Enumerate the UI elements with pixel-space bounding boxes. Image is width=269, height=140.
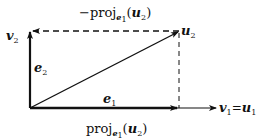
e1-label: e1 xyxy=(103,91,116,108)
v2-label: v2 xyxy=(6,28,19,45)
proj-label: proje1(u2) xyxy=(86,121,147,140)
e2-label: e2 xyxy=(34,60,47,77)
neg-proj-label: −proje1(u2) xyxy=(79,5,151,24)
u2-label: u2 xyxy=(181,23,196,40)
v1-equals-u1-label: v1=u1 xyxy=(219,100,256,117)
gram-schmidt-diagram: v2 u2 e2 e1 v1=u1 −proje1(u2) proje1(u2) xyxy=(0,0,269,140)
